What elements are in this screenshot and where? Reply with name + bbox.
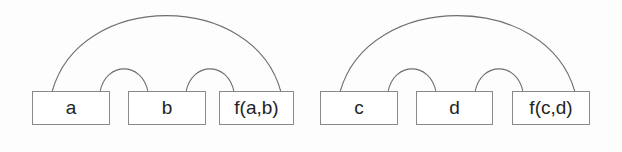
node-label: f(a,b)	[234, 98, 278, 117]
node-label: c	[354, 98, 364, 117]
arc-a-to-b	[100, 69, 148, 92]
arc-c-to-d	[388, 69, 436, 92]
node-box-fab[interactable]: f(a,b)	[219, 91, 294, 125]
arc-layer	[0, 0, 622, 152]
node-box-b[interactable]: b	[128, 91, 206, 125]
arc-a-to-fab	[52, 16, 281, 92]
arc-d-to-fcd	[475, 69, 523, 92]
arc-b-to-fab	[186, 69, 234, 92]
node-label: a	[66, 98, 77, 117]
node-label: b	[162, 98, 173, 117]
node-box-fcd[interactable]: f(c,d)	[512, 91, 590, 125]
arc-c-to-fcd	[340, 16, 575, 92]
diagram-canvas: abf(a,b)cdf(c,d)	[0, 0, 622, 152]
node-box-a[interactable]: a	[32, 91, 110, 125]
node-label: d	[449, 98, 460, 117]
node-box-c[interactable]: c	[320, 91, 398, 125]
node-label: f(c,d)	[529, 98, 572, 117]
node-box-d[interactable]: d	[416, 91, 493, 125]
